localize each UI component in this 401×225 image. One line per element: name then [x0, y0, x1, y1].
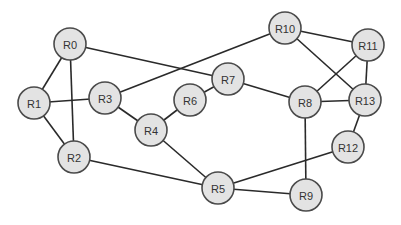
node-label: R4 [144, 125, 158, 137]
edge-r0-r7 [70, 44, 228, 79]
node-label: R9 [299, 190, 313, 202]
node-label: R6 [183, 95, 197, 107]
node-r10: R10 [269, 12, 301, 44]
node-label: R1 [27, 98, 41, 110]
edge-r2-r5 [74, 157, 218, 188]
node-label: R3 [98, 93, 112, 105]
node-label: R13 [355, 95, 375, 107]
node-r1: R1 [18, 87, 50, 119]
node-label: R7 [221, 74, 235, 86]
node-r0: R0 [54, 28, 86, 60]
node-r5: R5 [202, 172, 234, 204]
node-label: R2 [67, 152, 81, 164]
node-r9: R9 [290, 179, 322, 211]
node-r2: R2 [58, 141, 90, 173]
edge-r12-r5 [218, 147, 348, 188]
node-r3: R3 [89, 82, 121, 114]
network-diagram: R0R1R2R3R4R5R6R7R8R9R10R11R12R13 [0, 0, 401, 225]
node-r6: R6 [174, 84, 206, 116]
node-r7: R7 [212, 63, 244, 95]
node-label: R5 [211, 183, 225, 195]
node-label: R8 [298, 97, 312, 109]
node-label: R12 [338, 142, 358, 154]
node-r11: R11 [352, 29, 384, 61]
node-r8: R8 [289, 86, 321, 118]
node-r13: R13 [349, 84, 381, 116]
node-label: R10 [275, 23, 295, 35]
node-label: R0 [63, 39, 77, 51]
node-label: R11 [358, 40, 377, 52]
node-r12: R12 [332, 131, 364, 163]
node-r4: R4 [135, 114, 167, 146]
